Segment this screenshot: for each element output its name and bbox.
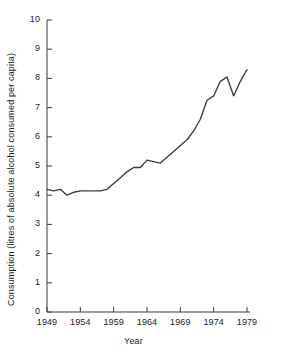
x-tick-label: 1964 (130, 317, 164, 327)
y-tick-label: 10 (24, 14, 40, 24)
x-tick-label: 1969 (163, 317, 197, 327)
x-tick-label: 1954 (63, 317, 97, 327)
y-tick-label: 5 (24, 160, 40, 170)
y-axis-ticks (47, 20, 52, 312)
y-tick-label: 7 (24, 102, 40, 112)
x-tick-label: 1949 (30, 317, 64, 327)
y-tick-label: 1 (24, 277, 40, 287)
y-tick-label: 9 (24, 43, 40, 53)
x-tick-label: 1979 (230, 317, 264, 327)
y-tick-label: 3 (24, 218, 40, 228)
y-tick-label: 2 (24, 248, 40, 258)
consumption-line (47, 70, 247, 196)
y-tick-label: 4 (24, 189, 40, 199)
y-tick-label: 0 (24, 306, 40, 316)
x-tick-label: 1974 (197, 317, 231, 327)
y-axis-title: Consumption (litres of absolute alcohol … (6, 53, 16, 306)
x-axis-ticks (47, 307, 247, 312)
x-axis-title: Year (124, 336, 143, 346)
chart-svg: Consumption (litres of absolute alcohol … (0, 0, 286, 355)
y-tick-label: 8 (24, 72, 40, 82)
x-tick-label: 1959 (97, 317, 131, 327)
chart-container: Consumption (litres of absolute alcohol … (0, 0, 286, 355)
y-tick-label: 6 (24, 131, 40, 141)
